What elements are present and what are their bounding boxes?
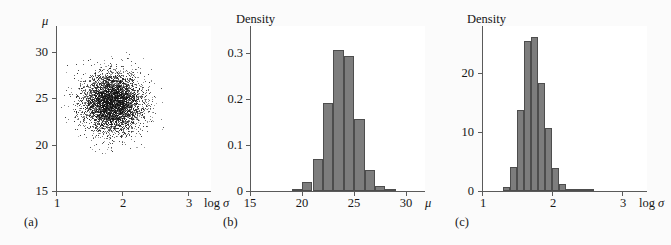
- scatter-point: [88, 91, 89, 92]
- scatter-point: [79, 108, 80, 109]
- scatter-point: [105, 101, 106, 102]
- scatter-point: [99, 83, 100, 84]
- scatter-point: [110, 98, 111, 99]
- scatter-point: [135, 90, 136, 91]
- scatter-point: [87, 93, 88, 94]
- scatter-point: [123, 109, 124, 110]
- scatter-point: [162, 129, 163, 130]
- panel-c-xtick-label-2: 2: [548, 197, 558, 210]
- scatter-point: [97, 126, 98, 127]
- histogram-bar: [344, 56, 354, 191]
- scatter-point: [122, 66, 123, 67]
- scatter-point: [122, 102, 123, 103]
- scatter-point: [113, 128, 114, 129]
- scatter-point: [78, 112, 79, 113]
- scatter-point: [144, 147, 145, 148]
- histogram-bar: [559, 184, 566, 191]
- scatter-point: [92, 130, 93, 131]
- scatter-point: [121, 136, 122, 137]
- panel-b-y-axis: [250, 26, 251, 192]
- scatter-point: [111, 147, 112, 148]
- scatter-point: [111, 106, 112, 107]
- scatter-point: [104, 112, 105, 113]
- scatter-point: [110, 63, 111, 64]
- scatter-point: [107, 89, 108, 90]
- scatter-point: [118, 102, 119, 103]
- scatter-point: [123, 72, 124, 73]
- scatter-point: [119, 124, 120, 125]
- scatter-point: [131, 107, 132, 108]
- scatter-point: [116, 108, 117, 109]
- scatter-point: [148, 103, 149, 104]
- panel-a-ytick-label-25: 25: [22, 92, 48, 105]
- scatter-point: [97, 84, 98, 85]
- scatter-point: [136, 85, 137, 86]
- scatter-point: [132, 85, 133, 86]
- scatter-point: [114, 126, 115, 127]
- scatter-point: [123, 86, 124, 87]
- scatter-point: [94, 86, 95, 87]
- scatter-point: [118, 115, 119, 116]
- scatter-point: [100, 133, 101, 134]
- scatter-point: [118, 118, 119, 119]
- scatter-point: [130, 113, 131, 114]
- scatter-point: [81, 78, 82, 79]
- scatter-point: [132, 128, 133, 129]
- scatter-point: [89, 128, 90, 129]
- scatter-point: [149, 82, 150, 83]
- scatter-point: [103, 121, 104, 122]
- scatter-point: [129, 54, 130, 55]
- scatter-point: [152, 97, 153, 98]
- scatter-point: [134, 96, 135, 97]
- scatter-point: [138, 108, 139, 109]
- scatter-point: [81, 98, 82, 99]
- scatter-point: [127, 116, 128, 117]
- scatter-point: [118, 107, 119, 108]
- scatter-point: [103, 128, 104, 129]
- scatter-point: [93, 91, 94, 92]
- panel-b-bars: [250, 26, 425, 191]
- scatter-point: [103, 81, 104, 82]
- panel-c-ytick-20: [478, 73, 482, 74]
- panel-a-caption: (a): [24, 215, 38, 230]
- scatter-point: [85, 102, 86, 103]
- scatter-point: [85, 125, 86, 126]
- scatter-point: [106, 133, 107, 134]
- scatter-point: [134, 74, 135, 75]
- scatter-point: [135, 63, 136, 64]
- scatter-point: [104, 99, 105, 100]
- scatter-point: [154, 105, 155, 106]
- scatter-point: [141, 144, 142, 145]
- scatter-point: [83, 64, 84, 65]
- scatter-point: [97, 87, 98, 88]
- scatter-point: [137, 115, 138, 116]
- scatter-point: [97, 99, 98, 100]
- scatter-point: [115, 98, 116, 99]
- scatter-point: [68, 87, 69, 88]
- scatter-point: [106, 124, 107, 125]
- scatter-point: [144, 103, 145, 104]
- scatter-point: [148, 112, 149, 113]
- scatter-point: [117, 136, 118, 137]
- scatter-point: [119, 93, 120, 94]
- scatter-point: [117, 120, 118, 121]
- scatter-point: [120, 129, 121, 130]
- panel-c-histogram-logsigma: 20 10 0 1 2 3 Density log σ (c): [447, 0, 671, 245]
- scatter-point: [143, 92, 144, 93]
- scatter-point: [80, 125, 81, 126]
- panel-a-ytick-20: [52, 145, 56, 146]
- scatter-point: [116, 68, 117, 69]
- scatter-point: [75, 105, 76, 106]
- panel-a-ytick-25: [52, 98, 56, 99]
- scatter-point: [108, 147, 109, 148]
- scatter-point: [115, 101, 116, 102]
- scatter-point: [118, 134, 119, 135]
- scatter-point: [128, 121, 129, 122]
- scatter-point: [64, 95, 65, 96]
- scatter-point: [144, 118, 145, 119]
- scatter-point: [151, 81, 152, 82]
- scatter-point: [111, 108, 112, 109]
- scatter-point: [117, 75, 118, 76]
- scatter-point: [89, 102, 90, 103]
- scatter-point: [138, 67, 139, 68]
